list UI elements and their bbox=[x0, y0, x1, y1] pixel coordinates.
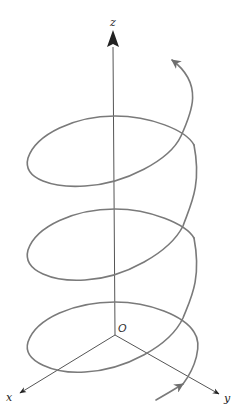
x-axis-label: x bbox=[6, 391, 13, 404]
helix-turn-2 bbox=[27, 145, 196, 280]
origin-label: O bbox=[118, 322, 127, 335]
z-axis: z bbox=[107, 16, 119, 335]
helix-curve bbox=[27, 60, 198, 400]
x-axis: x bbox=[6, 335, 115, 404]
z-axis-label: z bbox=[109, 16, 116, 29]
helix-turn-1 bbox=[27, 238, 198, 384]
helix-diagram: z x y O bbox=[0, 0, 239, 420]
helix-start-arrow bbox=[156, 384, 183, 400]
helix-turn-3 bbox=[27, 60, 194, 186]
y-axis: y bbox=[115, 335, 231, 405]
z-axis-arrowhead-icon bbox=[107, 30, 119, 47]
y-axis-label: y bbox=[223, 392, 231, 405]
